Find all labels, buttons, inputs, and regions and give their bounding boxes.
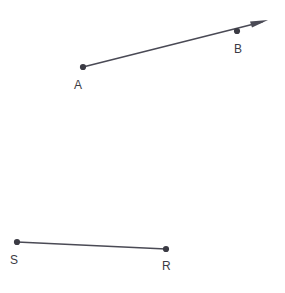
- ray-ab-arrowhead-icon: [250, 20, 268, 28]
- point-a-label: A: [74, 78, 82, 92]
- point-a-dot: [80, 64, 86, 70]
- point-s-dot: [14, 239, 20, 245]
- point-r-dot: [163, 246, 169, 252]
- point-b-label: B: [234, 42, 242, 56]
- point-r-label: R: [162, 259, 171, 273]
- geometry-svg: A B S R: [0, 0, 285, 293]
- geometry-figure-canvas: A B S R: [0, 0, 285, 293]
- point-s-label: S: [10, 253, 18, 267]
- segment-sr-line: [17, 242, 166, 249]
- point-b-dot: [234, 28, 240, 34]
